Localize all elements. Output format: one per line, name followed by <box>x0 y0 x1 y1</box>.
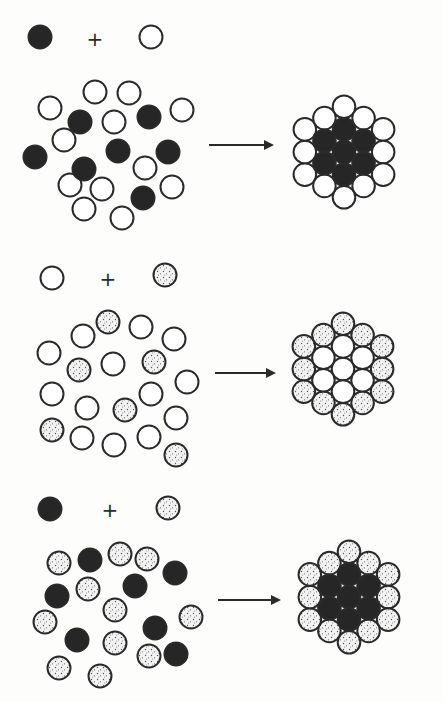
scattered-dotted-cell-icon <box>104 632 127 655</box>
scattered-dark-cell-icon <box>79 549 102 572</box>
scattered-dark-cell-icon <box>144 617 167 640</box>
scattered-light-cell-icon <box>176 371 199 394</box>
scattered-light-cell-icon <box>130 316 153 339</box>
scattered-dotted-cell-icon <box>48 657 71 680</box>
plus-sign: + <box>102 498 119 522</box>
aggregate-core-light-cell-icon <box>351 346 374 369</box>
scattered-light-cell-icon <box>163 328 186 351</box>
aggregate-core-light-cell-icon <box>312 369 335 392</box>
aggregate-core-dark-cell-icon <box>357 574 380 597</box>
scattered-dotted-cell-icon <box>41 419 64 442</box>
legend-dotted-cell-icon <box>154 264 177 287</box>
scattered-dotted-cell-icon <box>68 359 91 382</box>
scattered-light-cell-icon <box>165 407 188 430</box>
aggregate-core-dark-cell-icon <box>313 129 336 152</box>
scattered-light-cell-icon <box>76 397 99 420</box>
scattered-light-cell-icon <box>71 427 94 450</box>
figure-canvas: +++ <box>0 0 443 702</box>
aggregate-core-dark-cell-icon <box>352 129 375 152</box>
scattered-light-cell-icon <box>103 434 126 457</box>
legend-dark-cell-icon <box>39 498 62 521</box>
legend-dotted-cell-icon <box>157 497 180 520</box>
scattered-light-cell-icon <box>72 325 95 348</box>
plus-sign: + <box>87 27 104 51</box>
scattered-dotted-cell-icon <box>34 611 57 634</box>
legend-light-cell-icon <box>140 26 163 49</box>
scattered-dotted-cell-icon <box>48 552 71 575</box>
aggregate-core-dark-cell-icon <box>318 574 341 597</box>
scattered-dark-cell-icon <box>46 585 69 608</box>
scattered-light-cell-icon <box>91 178 114 201</box>
scattered-light-cell-icon <box>171 99 194 122</box>
scattered-light-cell-icon <box>39 97 62 120</box>
scattered-dark-cell-icon <box>165 643 188 666</box>
scattered-light-cell-icon <box>134 157 157 180</box>
scattered-light-cell-icon <box>140 383 163 406</box>
aggregate-core-dark-cell-icon <box>318 597 341 620</box>
scattered-light-cell-icon <box>118 82 141 105</box>
aggregate-core-dark-cell-icon <box>313 152 336 175</box>
scattered-light-cell-icon <box>38 342 61 365</box>
scattered-dark-cell-icon <box>132 187 155 210</box>
scattered-dark-cell-icon <box>73 158 96 181</box>
scattered-dark-cell-icon <box>138 106 161 129</box>
scattered-dotted-cell-icon <box>104 599 127 622</box>
aggregate-core-light-cell-icon <box>312 346 335 369</box>
scattered-light-cell-icon <box>53 129 76 152</box>
cell-sorting-figure: +++ <box>0 0 443 702</box>
scattered-dotted-cell-icon <box>77 578 100 601</box>
scattered-light-cell-icon <box>102 353 125 376</box>
scattered-dark-cell-icon <box>66 629 89 652</box>
scattered-dotted-cell-icon <box>165 444 188 467</box>
scattered-dotted-cell-icon <box>180 606 203 629</box>
scattered-dotted-cell-icon <box>109 543 132 566</box>
scattered-dotted-cell-icon <box>136 548 159 571</box>
scattered-light-cell-icon <box>103 111 126 134</box>
legend-light-cell-icon <box>41 267 64 290</box>
scattered-dotted-cell-icon <box>114 399 137 422</box>
scattered-dotted-cell-icon <box>143 351 166 374</box>
scattered-dark-cell-icon <box>157 141 180 164</box>
scattered-dark-cell-icon <box>164 562 187 585</box>
scattered-dark-cell-icon <box>69 111 92 134</box>
scattered-dotted-cell-icon <box>89 665 112 688</box>
plus-sign: + <box>100 267 117 291</box>
scattered-light-cell-icon <box>73 198 96 221</box>
scattered-dotted-cell-icon <box>138 645 161 668</box>
scattered-light-cell-icon <box>84 81 107 104</box>
scattered-dark-cell-icon <box>107 140 130 163</box>
scattered-light-cell-icon <box>111 207 134 230</box>
scattered-dotted-cell-icon <box>97 311 120 334</box>
scattered-light-cell-icon <box>161 176 184 199</box>
legend-dark-cell-icon <box>29 26 52 49</box>
scattered-dark-cell-icon <box>24 146 47 169</box>
scattered-light-cell-icon <box>41 383 64 406</box>
scattered-dark-cell-icon <box>124 575 147 598</box>
scattered-light-cell-icon <box>138 426 161 449</box>
